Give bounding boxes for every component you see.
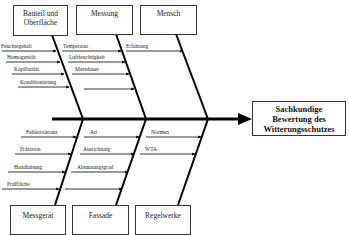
category-box-bauteil: Bauteil und Oberfläche [13, 5, 68, 36]
category-box-fassade: Fassade [72, 205, 129, 235]
cause-label: Erfahrung [126, 43, 148, 49]
effect-title-line: Sachkundige [253, 104, 345, 114]
cause-label: Homogenität [7, 54, 36, 60]
effect-box: Sachkundige Bewertung des Witterungsschu… [252, 101, 346, 136]
cause-label: Präzision [20, 146, 40, 152]
category-title: Oberfläche [14, 18, 67, 27]
effect-title-line: Witterungsschutzes [253, 124, 345, 134]
cause-label: WTA [145, 146, 157, 152]
cause-label: Normen [151, 129, 169, 135]
bone-messgeraet [55, 119, 83, 205]
category-title: Regelwerke [136, 211, 190, 220]
effect-title-line: Bewertung des [253, 114, 345, 124]
category-title: Bauteil und [14, 9, 67, 18]
category-box-regelwerke: Regelwerke [135, 205, 191, 235]
cause-label: Prüffläche [7, 181, 30, 187]
cause-label: Luftfeuchtigkeit [69, 54, 105, 60]
cause-label: Kapillarität [14, 66, 39, 72]
cause-label: Fehlertoleranz [26, 129, 58, 135]
cause-label: Handhabung [14, 164, 42, 170]
category-title: Mensch [141, 9, 196, 18]
category-title: Fassade [73, 211, 128, 220]
cause-label: Ausrichtung [83, 146, 110, 152]
spine-arrow-head [238, 113, 252, 125]
cause-label: Abnutzungsgrad [77, 164, 113, 170]
bone-regelwerke [178, 119, 208, 205]
category-box-messgeraet: Messgerät [10, 205, 66, 235]
cause-label: Feuchtegehalt [1, 43, 32, 49]
cause-label: Messdauer [75, 66, 99, 72]
category-title: Messung [77, 9, 132, 18]
cause-label: Art [90, 129, 97, 135]
bone-mensch [176, 34, 208, 119]
category-box-messung: Messung [76, 5, 133, 35]
bone-fassade [116, 119, 146, 205]
category-box-mensch: Mensch [140, 5, 197, 35]
category-title: Messgerät [11, 211, 65, 220]
cause-label: Temperatur [63, 43, 88, 49]
cause-label: Konditionierung [20, 79, 56, 85]
